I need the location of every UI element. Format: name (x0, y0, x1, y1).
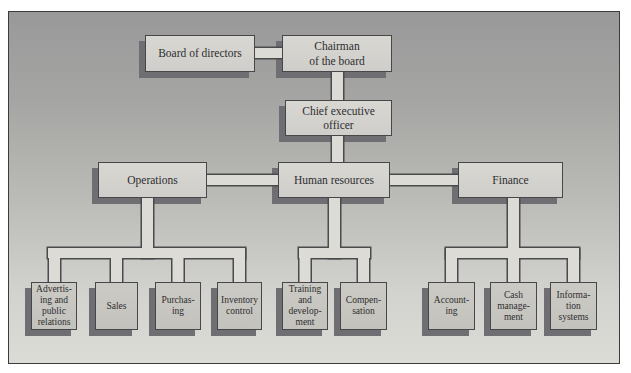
org-box-operations: Operations (98, 162, 207, 198)
org-box-board-of-directors: Board of directors (145, 35, 255, 72)
org-box-label: Sales (106, 301, 126, 312)
org-box-label: Operations (127, 173, 177, 187)
org-box-label: Compen- sation (346, 295, 381, 317)
org-box-purchasing: Purchas- ing (155, 282, 201, 330)
org-box-label: Informa- tion systems (557, 290, 591, 323)
org-box-advertising-public-relations: Advertis- ing and public relations (31, 282, 77, 330)
org-box-training-development: Training and develop- ment (282, 282, 328, 330)
org-box-label: Cash manage- ment (497, 290, 530, 323)
org-box-chairman: Chairman of the board (282, 35, 392, 72)
org-box-accounting: Account- ing (428, 282, 475, 330)
org-box-finance: Finance (458, 162, 563, 198)
org-box-label: Board of directors (158, 46, 242, 60)
org-box-label: Chairman of the board (309, 39, 365, 67)
org-box-information-systems: Informa- tion systems (550, 282, 597, 330)
org-box-label: Finance (492, 173, 528, 187)
org-box-sales: Sales (95, 282, 138, 330)
org-box-label: Training and develop- ment (288, 284, 321, 328)
org-box-inventory-control: Inventory control (217, 282, 262, 330)
org-box-label: Purchas- ing (161, 295, 194, 317)
org-box-label: Advertis- ing and public relations (36, 284, 72, 328)
org-box-cash-management: Cash manage- ment (490, 282, 537, 330)
org-box-human-resources: Human resources (278, 162, 390, 198)
org-box-label: Chief executive officer (302, 104, 374, 132)
org-chart-figure: Board of directors Chairman of the board… (0, 0, 631, 373)
org-box-label: Account- ing (434, 295, 469, 317)
org-box-label: Inventory control (221, 295, 258, 317)
org-box-compensation: Compen- sation (340, 282, 387, 330)
org-box-label: Human resources (294, 173, 374, 187)
org-box-ceo: Chief executive officer (285, 100, 392, 136)
